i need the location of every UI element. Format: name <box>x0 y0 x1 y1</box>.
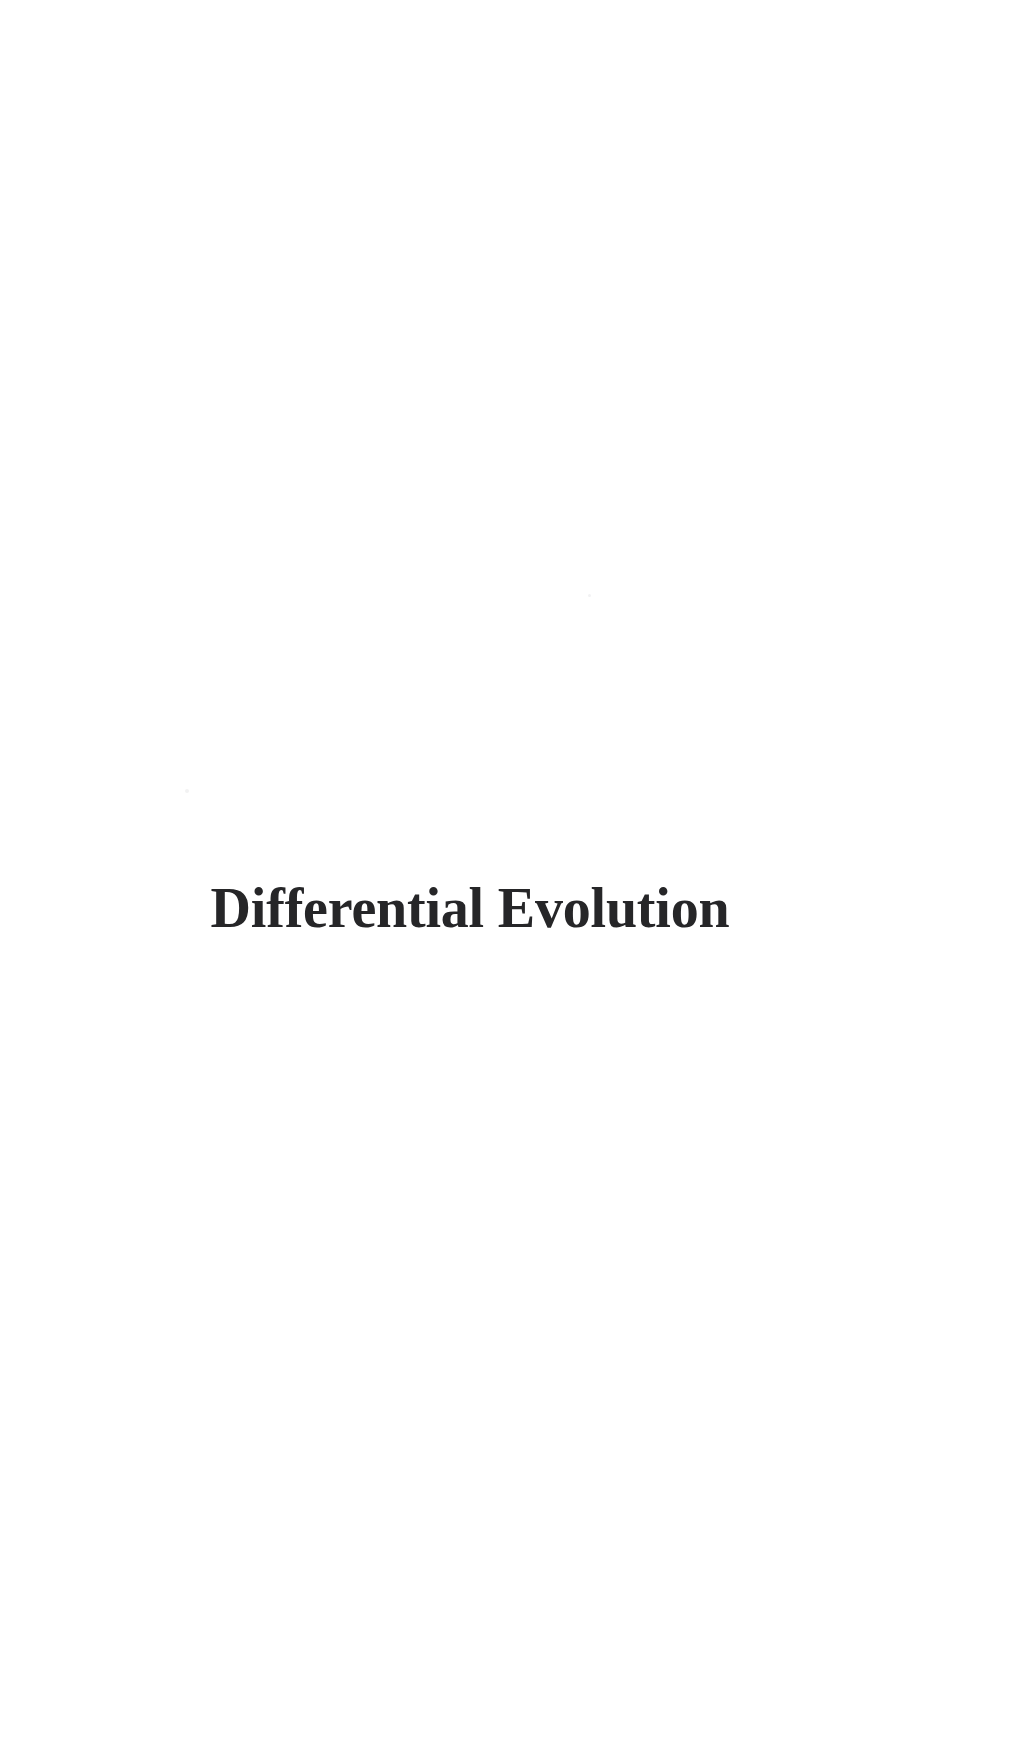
book-part-divider-page: Differential Evolution <box>0 0 1019 1764</box>
page-title: Differential Evolution <box>0 879 940 937</box>
scan-speckle-icon <box>185 789 189 793</box>
scan-speckle-icon <box>588 594 591 597</box>
